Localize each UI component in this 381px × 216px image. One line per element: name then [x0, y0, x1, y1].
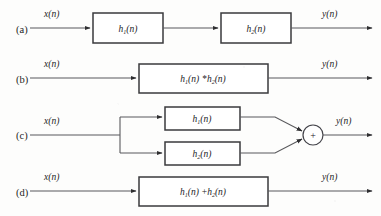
row-c-lower-merge-wire	[240, 139, 302, 153]
row-a-input-arg: (n)	[48, 9, 59, 20]
figure-container: (a) x(n) h1(n) h2(n) y(n)	[0, 0, 381, 216]
row-a-group: (a) x(n) h1(n) h2(n) y(n)	[16, 9, 372, 43]
svg-text:x(n): x(n)	[43, 172, 59, 183]
svg-text:y(n): y(n)	[335, 116, 351, 127]
row-a-output-arg: (n)	[326, 9, 337, 20]
row-d-output-label: y(n)	[321, 172, 337, 183]
row-b-block-label: h1(n)*h2(n)	[180, 74, 225, 85]
row-d-block-label: h1(n)+h2(n)	[180, 187, 226, 198]
svg-text:x(n): x(n)	[43, 59, 59, 70]
row-c-h2-label: h2(n)	[193, 149, 212, 160]
row-d-label: (d)	[16, 187, 29, 199]
row-b-output-label: y(n)	[321, 59, 337, 70]
row-c-h1-label: h1(n)	[193, 114, 212, 125]
svg-text:x(n): x(n)	[43, 116, 59, 127]
row-a-h2-label: h2(n)	[247, 24, 266, 35]
row-d-group: (d) x(n) h1(n)+h2(n) y(n)	[16, 172, 372, 206]
row-c-output-label: y(n)	[335, 116, 351, 127]
row-a-input-label: x(n)	[43, 9, 59, 20]
row-a-h1-label: h1(n)	[119, 24, 138, 35]
row-c-input-label: x(n)	[43, 116, 59, 127]
svg-text:x(n): x(n)	[43, 9, 59, 20]
svg-text:y(n): y(n)	[321, 172, 337, 183]
row-c-upper-merge-wire	[240, 117, 302, 131]
row-c-label: (c)	[16, 130, 28, 142]
block-diagram-svg: (a) x(n) h1(n) h2(n) y(n)	[0, 0, 381, 216]
row-b-input-label: x(n)	[43, 59, 59, 70]
row-b-label: (b)	[16, 74, 29, 86]
adder-plus-symbol: +	[310, 130, 316, 141]
svg-text:y(n): y(n)	[321, 59, 337, 70]
row-a-label: (a)	[16, 24, 28, 36]
row-b-group: (b) x(n) h1(n)*h2(n) y(n)	[16, 59, 372, 93]
svg-text:y(n): y(n)	[321, 9, 337, 20]
row-c-group: (c) x(n) h1(n) h2(n)	[16, 107, 372, 165]
row-d-input-label: x(n)	[43, 172, 59, 183]
row-a-output-label: y(n)	[321, 9, 337, 20]
